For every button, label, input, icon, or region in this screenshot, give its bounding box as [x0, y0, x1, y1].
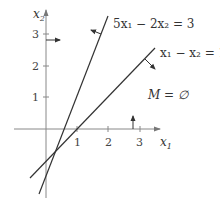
x-tick-3: 3	[136, 136, 143, 149]
steep-line-label: 5x₁ − 2x₂ = 3	[113, 17, 194, 31]
diagonal-line-label: x₁ − x₂ = 1	[160, 46, 220, 60]
x-tick-2: 2	[105, 136, 112, 149]
y-axis-label: x2	[33, 7, 45, 23]
steep-line	[39, 16, 108, 194]
diagram-canvas: 1 2 3 1 2 3 x2 x1 5x₁ − 2x₂ = 3 x₁ − x₂ …	[0, 0, 220, 202]
diagonal-line-normal-arrow	[145, 59, 155, 69]
y-tick-3: 3	[32, 28, 39, 41]
y-tick-2: 2	[32, 60, 39, 73]
y-tick-1: 1	[32, 91, 39, 104]
x-tick-1: 1	[74, 136, 81, 149]
x-axis-label: x1	[160, 135, 172, 151]
steep-line-normal-arrow	[91, 30, 101, 34]
empty-set-annotation: M = ∅	[147, 88, 189, 102]
diagonal-line	[30, 48, 155, 178]
